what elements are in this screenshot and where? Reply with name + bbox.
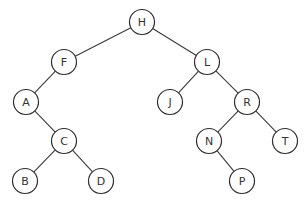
- tree-node-h: H: [130, 10, 155, 35]
- tree-node-r: R: [235, 90, 260, 115]
- tree-node-c: C: [52, 129, 77, 154]
- node-label: P: [239, 175, 246, 188]
- node-label: N: [205, 135, 213, 148]
- edge-l-r: [216, 71, 238, 93]
- edge-h-l: [153, 29, 197, 56]
- node-label: L: [204, 56, 211, 69]
- node-label: B: [21, 175, 29, 188]
- tree-node-l: L: [195, 50, 220, 75]
- edge-r-n: [218, 111, 239, 132]
- tree-node-n: N: [197, 129, 222, 154]
- node-label: D: [97, 175, 105, 188]
- edge-f-a: [35, 71, 56, 93]
- node-label: C: [60, 135, 68, 148]
- node-label: H: [138, 16, 146, 29]
- edge-h-f: [75, 28, 131, 57]
- tree-node-d: D: [89, 169, 114, 194]
- node-label: R: [243, 96, 251, 109]
- tree-node-j: J: [158, 90, 183, 115]
- node-label: J: [167, 96, 171, 109]
- edge-n-p: [217, 151, 234, 172]
- tree-node-a: A: [14, 90, 39, 115]
- tree-node-b: B: [13, 169, 38, 194]
- tree-canvas: HFLAJRCNTBDP: [0, 0, 307, 205]
- tree-node-t: T: [273, 129, 298, 154]
- edge-c-b: [34, 150, 56, 172]
- edge-a-c: [35, 111, 56, 132]
- edge-r-t: [256, 111, 277, 132]
- tree-node-p: P: [230, 169, 255, 194]
- node-label: A: [22, 96, 30, 109]
- edge-c-d: [72, 150, 92, 172]
- node-label: F: [61, 56, 67, 69]
- edge-l-j: [178, 71, 198, 93]
- nodes-layer: HFLAJRCNTBDP: [13, 10, 298, 194]
- tree-node-f: F: [52, 50, 77, 75]
- node-label: T: [281, 135, 289, 148]
